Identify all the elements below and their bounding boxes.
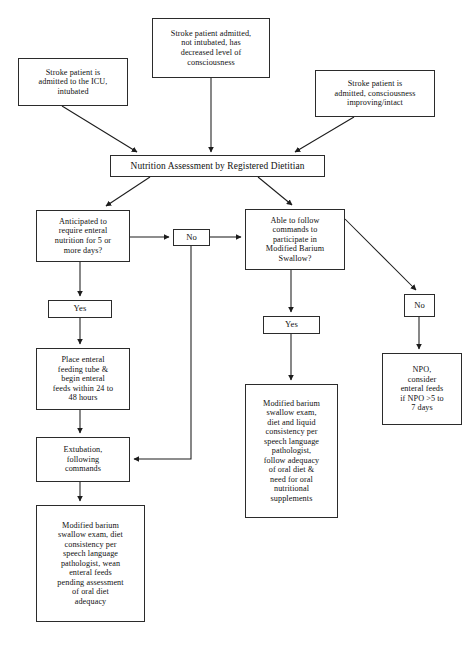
- edge-intact-to-assessment: [295, 117, 354, 152]
- node-label: Extubation, following commands: [64, 445, 103, 474]
- node-label: Stroke patient is admitted, consciousnes…: [334, 79, 415, 108]
- node-npo-consider: NPO, consider enteral feeds if NPO >5 to…: [382, 353, 462, 425]
- node-label: No: [414, 301, 425, 311]
- edge-assessment-to-anticipated: [106, 177, 150, 206]
- edge-no-down-to-extubation: [134, 246, 191, 459]
- node-yes-left: Yes: [48, 300, 112, 318]
- edge-assessment-to-able: [258, 177, 292, 205]
- node-label: Able to follow commands to participate i…: [266, 216, 324, 264]
- node-extubation: Extubation, following commands: [36, 437, 130, 482]
- node-label: Nutrition Assessment by Registered Dieti…: [131, 161, 305, 172]
- node-yes-middle: Yes: [263, 316, 320, 334]
- node-label: Stroke patient is admitted to the ICU, i…: [39, 68, 108, 97]
- node-decreased-loc: Stroke patient admitted, not intubated, …: [152, 18, 270, 78]
- node-consciousness-intact: Stroke patient is admitted, consciousnes…: [315, 70, 435, 117]
- node-label: Modified barium swallow exam, diet and l…: [263, 399, 320, 504]
- node-mbs-oral-supplements: Modified barium swallow exam, diet and l…: [245, 384, 338, 518]
- edge-icu-to-assessment: [62, 106, 137, 152]
- node-label: Place enteral feeding tube & begin enter…: [53, 355, 113, 403]
- node-nutrition-assessment: Nutrition Assessment by Registered Dieti…: [110, 155, 325, 177]
- node-label: No: [186, 233, 197, 243]
- node-label: Stroke patient admitted, not intubated, …: [171, 29, 251, 67]
- node-label: NPO, consider enteral feeds if NPO >5 to…: [400, 365, 444, 413]
- node-place-enteral-tube: Place enteral feeding tube & begin enter…: [36, 348, 130, 410]
- node-icu-intubated: Stroke patient is admitted to the ICU, i…: [18, 58, 128, 106]
- node-anticipated-enteral: Anticipated to require enteral nutrition…: [36, 210, 130, 262]
- node-no-left: No: [173, 229, 210, 246]
- node-able-to-follow: Able to follow commands to participate i…: [245, 209, 345, 270]
- node-no-right: No: [404, 294, 435, 317]
- node-mbs-wean-enteral: Modified barium swallow exam, diet consi…: [36, 505, 145, 622]
- edge-able-to-no-right: [345, 219, 416, 290]
- node-label: Modified barium swallow exam, diet consi…: [57, 521, 123, 607]
- node-label: Yes: [74, 304, 87, 314]
- node-label: Anticipated to require enteral nutrition…: [55, 217, 111, 255]
- node-label: Yes: [285, 320, 298, 330]
- flowchart-canvas: Stroke patient is admitted to the ICU, i…: [0, 0, 471, 650]
